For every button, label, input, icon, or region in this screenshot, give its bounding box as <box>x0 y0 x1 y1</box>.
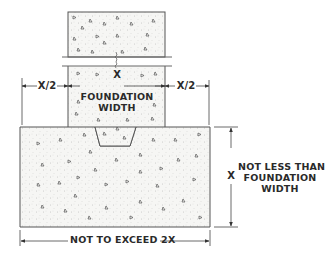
footing <box>20 127 210 227</box>
right-offset-label: X/2 <box>175 80 197 92</box>
foundation-width-label: FOUNDATION WIDTH <box>78 92 156 114</box>
depth-note-line3: WIDTH <box>238 184 322 195</box>
footing-width-note: NOT TO EXCEED 2X <box>70 235 160 246</box>
depth-note-label: NOT LESS THAN FOUNDATION WIDTH <box>238 162 322 195</box>
footing-depth-label: X <box>226 170 236 182</box>
left-offset-label: X/2 <box>36 80 58 92</box>
foundation-width-line2: WIDTH <box>78 103 156 114</box>
wall-width-label: X <box>111 69 123 81</box>
foundation-diagram <box>0 0 325 258</box>
